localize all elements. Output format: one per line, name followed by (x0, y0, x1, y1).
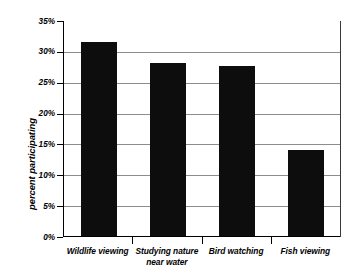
bar-chart: percent participating 0%5%10%15%20%25%30… (0, 0, 357, 277)
y-tick-label-0: 0% (0, 233, 55, 242)
bar (219, 66, 255, 236)
y-tick-mark-30 (57, 52, 63, 53)
bar (81, 42, 117, 236)
y-tick-mark-35 (57, 21, 63, 22)
bar (288, 150, 324, 236)
x-axis-label: Bird watching (202, 246, 271, 257)
y-tick-mark-25 (57, 83, 63, 84)
y-tick-mark-20 (57, 114, 63, 115)
y-tick-label-25: 25% (0, 78, 55, 87)
y-tick-label-30: 30% (0, 47, 55, 56)
y-tick-label-20: 20% (0, 109, 55, 118)
x-axis-label: Wildlife viewing (63, 246, 132, 257)
y-tick-mark-0 (57, 237, 63, 238)
plot-area (63, 21, 340, 237)
y-tick-label-5: 5% (0, 202, 55, 211)
y-tick-mark-15 (57, 144, 63, 145)
y-tick-mark-10 (57, 175, 63, 176)
y-tick-label-15: 15% (0, 140, 55, 149)
x-axis-separator (132, 237, 133, 244)
y-tick-label-35: 35% (0, 17, 55, 26)
y-tick-label-10: 10% (0, 171, 55, 180)
x-axis-label: Studying nature near water (132, 246, 201, 268)
x-axis-separator (271, 237, 272, 244)
y-tick-mark-5 (57, 206, 63, 207)
x-axis-separator (202, 237, 203, 244)
bar (150, 63, 186, 236)
x-axis-label: Fish viewing (271, 246, 340, 257)
